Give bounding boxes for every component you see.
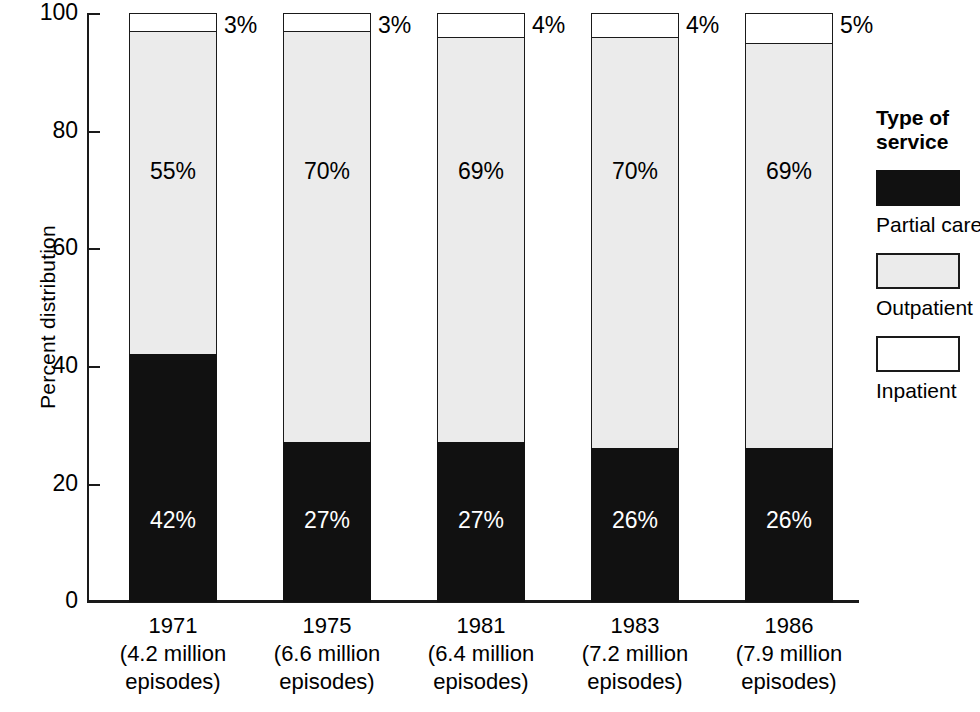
legend-label-outpatient: Outpatient	[876, 296, 980, 320]
bar-1971-label-partial: 42%	[129, 509, 217, 532]
bar-1986-label-outpatient: 69%	[745, 160, 833, 183]
legend-item-partial-care: Partial care	[876, 170, 980, 237]
bar-1983-segment-inpatient	[591, 13, 679, 38]
bar-1981-label-outpatient: 69%	[437, 160, 525, 183]
bar-1986-label-inpatient: 5%	[840, 14, 873, 37]
y-tick-40	[87, 366, 100, 368]
x-label-1971-sub2: episodes)	[93, 668, 253, 696]
bar-1986-label-partial: 26%	[745, 509, 833, 532]
legend-item-outpatient: Outpatient	[876, 253, 980, 320]
x-label-1986-sub1: (7.9 million	[709, 640, 869, 668]
y-tick-label-80: 80	[14, 119, 78, 142]
bar-1975-segment-outpatient	[283, 31, 371, 443]
x-label-1983-sub2: episodes)	[555, 668, 715, 696]
legend-title: Type of service	[876, 106, 980, 154]
bar-1981-segment-inpatient	[437, 13, 525, 38]
x-label-1986: 1986 (7.9 million episodes)	[709, 612, 869, 696]
bar-1971-label-outpatient: 55%	[129, 160, 217, 183]
bar-1983-label-outpatient: 70%	[591, 160, 679, 183]
x-label-1971-year: 1971	[93, 612, 253, 640]
y-tick-label-40: 40	[14, 354, 78, 377]
legend-title-line2: service	[876, 130, 980, 154]
x-label-1981-year: 1981	[401, 612, 561, 640]
y-tick-60	[87, 248, 100, 250]
stacked-bar-chart: Percent distribution 100 80 60 40 20 0 5…	[0, 0, 980, 712]
y-tick-100	[87, 13, 100, 15]
bar-1981-label-partial: 27%	[437, 509, 525, 532]
x-label-1971: 1971 (4.2 million episodes)	[93, 612, 253, 696]
y-tick-label-20: 20	[14, 472, 78, 495]
bar-1983-segment-outpatient	[591, 37, 679, 449]
legend: Type of service Partial care Outpatient …	[876, 106, 980, 403]
legend-label-inpatient: Inpatient	[876, 379, 980, 403]
x-label-1975-sub2: episodes)	[247, 668, 407, 696]
bar-1975-label-inpatient: 3%	[378, 14, 411, 37]
x-label-1975-sub1: (6.6 million	[247, 640, 407, 668]
y-axis-line	[87, 13, 89, 602]
bar-1986-segment-outpatient	[745, 43, 833, 449]
y-tick-label-0: 0	[14, 589, 78, 612]
legend-item-inpatient: Inpatient	[876, 336, 980, 403]
x-label-1981-sub1: (6.4 million	[401, 640, 561, 668]
x-label-1975-year: 1975	[247, 612, 407, 640]
bar-1975-label-partial: 27%	[283, 509, 371, 532]
bar-1981-label-inpatient: 4%	[532, 14, 565, 37]
x-label-1983-year: 1983	[555, 612, 715, 640]
x-label-1975: 1975 (6.6 million episodes)	[247, 612, 407, 696]
bar-1971-segment-partial	[129, 354, 217, 602]
x-label-1981: 1981 (6.4 million episodes)	[401, 612, 561, 696]
x-label-1981-sub2: episodes)	[401, 668, 561, 696]
y-tick-label-100: 100	[14, 1, 78, 24]
legend-swatch-outpatient-icon	[876, 253, 960, 289]
x-label-1983-sub1: (7.2 million	[555, 640, 715, 668]
bar-1971-label-inpatient: 3%	[224, 14, 257, 37]
bar-1971-segment-inpatient	[129, 13, 217, 32]
bar-1975-label-outpatient: 70%	[283, 160, 371, 183]
x-label-1986-year: 1986	[709, 612, 869, 640]
y-tick-label-60: 60	[14, 236, 78, 259]
legend-label-partial-care: Partial care	[876, 213, 980, 237]
y-tick-20	[87, 484, 100, 486]
legend-title-line1: Type of	[876, 106, 949, 129]
bar-1971-segment-outpatient	[129, 31, 217, 355]
bar-1983-label-inpatient: 4%	[686, 14, 719, 37]
bar-1981-segment-outpatient	[437, 37, 525, 443]
x-label-1971-sub1: (4.2 million	[93, 640, 253, 668]
legend-swatch-inpatient-icon	[876, 336, 960, 372]
bar-1986-segment-inpatient	[745, 13, 833, 44]
bar-1983-label-partial: 26%	[591, 509, 679, 532]
x-label-1986-sub2: episodes)	[709, 668, 869, 696]
y-tick-80	[87, 131, 100, 133]
legend-swatch-partial-care-icon	[876, 170, 960, 206]
bar-1975-segment-inpatient	[283, 13, 371, 32]
x-label-1983: 1983 (7.2 million episodes)	[555, 612, 715, 696]
